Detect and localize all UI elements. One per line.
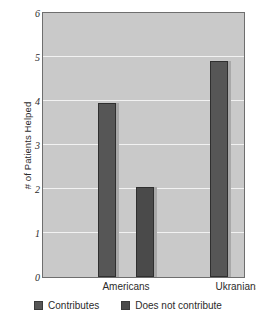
x-label-americans: Americans xyxy=(102,281,149,292)
y-axis-tick-labels: 0123456 xyxy=(20,12,40,278)
legend-swatch-icon xyxy=(121,301,130,310)
legend-item-contributes[interactable]: Contributes xyxy=(34,300,99,311)
chart-legend: ContributesDoes not contribute xyxy=(0,300,256,311)
y-tick-label-4: 4 xyxy=(20,96,40,107)
bar-chart-figure: # of Patients Helped 0123456 AmericansUk… xyxy=(0,0,256,321)
plot-area xyxy=(42,12,245,278)
bar-americans-does-not-contribute xyxy=(136,187,154,277)
y-tick-label-1: 1 xyxy=(20,228,40,239)
bar-ukranians-contributes xyxy=(210,61,228,277)
y-tick-label-6: 6 xyxy=(20,8,40,19)
legend-label: Does not contribute xyxy=(135,300,222,311)
gridline xyxy=(43,56,244,57)
y-tick-label-5: 5 xyxy=(20,52,40,63)
x-axis-category-labels: AmericansUkranians xyxy=(42,281,245,297)
y-tick-label-2: 2 xyxy=(20,184,40,195)
legend-swatch-icon xyxy=(34,301,43,310)
y-tick-label-0: 0 xyxy=(20,272,40,283)
y-tick-label-3: 3 xyxy=(20,140,40,151)
bar-americans-contributes xyxy=(98,103,116,277)
legend-item-does-not-contribute[interactable]: Does not contribute xyxy=(121,300,222,311)
x-label-ukranians: Ukranians xyxy=(215,281,256,292)
legend-label: Contributes xyxy=(48,300,99,311)
